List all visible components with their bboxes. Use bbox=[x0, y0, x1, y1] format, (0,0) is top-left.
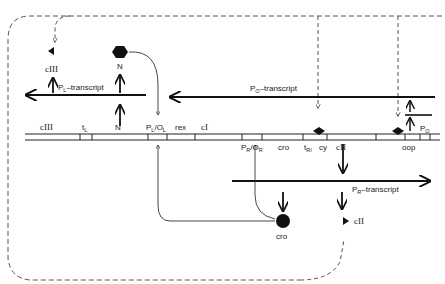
n-protein-hexagon bbox=[112, 46, 128, 58]
map-label-cy: cy bbox=[319, 143, 327, 152]
ciii-top-label: cIII bbox=[45, 64, 58, 74]
map-label-pl-ol: PL/OL bbox=[146, 123, 166, 133]
pr-transcript-label: PR–transcript bbox=[352, 185, 399, 195]
cro-to-pl-arrow bbox=[158, 145, 275, 221]
ciii-protein-triangle bbox=[48, 47, 54, 55]
cro-protein-label: cro bbox=[276, 232, 288, 241]
map-label-tl: tL bbox=[82, 123, 87, 133]
dashed-feedback-loop bbox=[8, 16, 442, 280]
dashed-cii-return bbox=[300, 240, 344, 280]
n-antitermination-arrow bbox=[129, 52, 158, 115]
cro-protein-circle bbox=[276, 214, 290, 228]
map-label-n: N bbox=[115, 123, 121, 132]
map-label-po: PO bbox=[420, 124, 430, 134]
cii-protein-triangle bbox=[343, 217, 349, 225]
map-label-cii: cII bbox=[336, 142, 346, 152]
pl-transcript-label: PL–transcript bbox=[58, 83, 105, 93]
map-label-tri: tRI bbox=[304, 143, 312, 153]
lambda-regulation-diagram: cIII N PL–transcript PO–transcript cIII … bbox=[0, 0, 445, 284]
map-label-pr-or: PR/OR bbox=[241, 143, 263, 153]
map-label-oop: oop bbox=[402, 143, 416, 152]
gene-boundaries bbox=[80, 134, 430, 140]
n-top-label: N bbox=[117, 62, 123, 71]
cii-protein-label: cII bbox=[354, 216, 364, 226]
map-label-ciii: cIII bbox=[40, 122, 53, 132]
dashed-to-ciii bbox=[55, 16, 70, 42]
map-label-rex: rex bbox=[175, 123, 186, 132]
map-label-ci: cI bbox=[201, 122, 208, 132]
po-transcript-label: PO–transcript bbox=[250, 84, 298, 94]
map-label-cro: cro bbox=[278, 143, 290, 152]
